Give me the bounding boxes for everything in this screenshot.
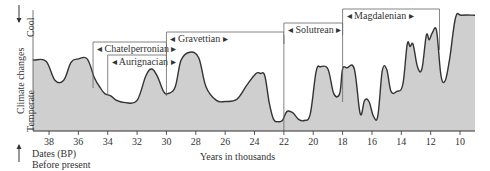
x-tick-label: 12 [426, 136, 436, 147]
x-tick-label: 16 [367, 136, 377, 147]
period-label: ◂ Gravettian ▸ [170, 33, 227, 44]
x-tick-label: 22 [279, 136, 289, 147]
climate-area [33, 10, 475, 131]
x-tick-label: 34 [103, 136, 113, 147]
period-label: ◂ Aurignacian ▸ [112, 56, 176, 67]
x-axis-title: Years in thousands [200, 151, 275, 162]
period-label: ◂ Chatelperronian ▸ [97, 43, 176, 54]
x-tick-label: 14 [396, 136, 406, 147]
x-tick-label: 30 [161, 136, 171, 147]
climate-area-fill [33, 13, 475, 131]
dates-label-line1: Dates (BP) [32, 148, 76, 159]
x-tick-label: 36 [73, 136, 83, 147]
x-tick-label: 32 [132, 136, 142, 147]
x-tick-label: 28 [191, 136, 201, 147]
arrow-up-temperate-icon [17, 144, 22, 162]
period-label: ◂ Solutrean ▸ [288, 24, 341, 35]
x-tick-label: 18 [338, 136, 348, 147]
x-tick-label: 38 [44, 136, 54, 147]
period-label: ◂ Magdalenian ▸ [347, 10, 414, 21]
dates-label-line2: Before present [32, 159, 91, 170]
x-axis: 383634323028262422201816141210 [33, 131, 475, 147]
y-axis-arrows [0, 0, 40, 171]
x-tick-label: 24 [250, 136, 260, 147]
arrow-up-cool-icon [17, 5, 22, 23]
x-tick-label: 10 [455, 136, 465, 147]
x-tick-label: 26 [220, 136, 230, 147]
x-tick-label: 20 [308, 136, 318, 147]
climate-chart: ◂ Chatelperronian ▸◂ Aurignacian ▸◂ Grav… [0, 0, 490, 171]
